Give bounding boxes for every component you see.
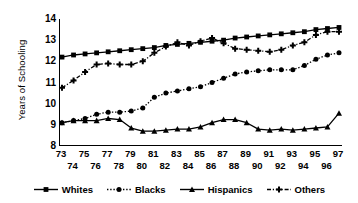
plot-area [59, 19, 342, 146]
legend-label: Others [295, 184, 326, 195]
x-tick-label: 73 [51, 148, 71, 159]
legend-marker-circle-icon [106, 184, 132, 195]
series-others [60, 29, 342, 91]
y-tick-label: 10 [34, 99, 56, 109]
x-tick-label: 93 [282, 148, 302, 159]
x-tick-label: 75 [74, 148, 94, 159]
legend-item-others[interactable]: Others [266, 184, 326, 195]
legend-label: Blacks [135, 184, 166, 195]
x-tick-label: 87 [213, 148, 233, 159]
x-axis-tick-labels: 7375777981838587899193959774767880828486… [0, 147, 358, 175]
legend-item-whites[interactable]: Whites [33, 184, 93, 195]
legend-label: Whites [62, 184, 93, 195]
legend-marker-triangle-icon [179, 184, 205, 195]
x-tick-label: 95 [305, 148, 325, 159]
x-tick-label: 74 [63, 160, 83, 171]
legend-marker-square-icon [33, 184, 59, 195]
x-tick-label: 86 [201, 160, 221, 171]
x-tick-label: 90 [247, 160, 267, 171]
x-tick-label: 83 [166, 148, 186, 159]
x-tick-label: 76 [86, 160, 106, 171]
chart-container: Years of Schooling 891011121314 73757779… [0, 0, 358, 203]
plot-svg [60, 19, 343, 146]
legend-item-hispanics[interactable]: Hispanics [179, 184, 253, 195]
x-tick-label: 85 [190, 148, 210, 159]
x-tick-label: 88 [224, 160, 244, 171]
x-tick-label: 84 [178, 160, 198, 171]
y-tick-label: 14 [34, 14, 56, 24]
x-tick-label: 94 [293, 160, 313, 171]
x-tick-label: 97 [328, 148, 348, 159]
series-hispanics [60, 110, 342, 134]
y-tick-label: 9 [34, 120, 56, 130]
x-tick-label: 81 [143, 148, 163, 159]
x-tick-label: 77 [97, 148, 117, 159]
x-tick-label: 80 [132, 160, 152, 171]
x-tick-label: 92 [270, 160, 290, 171]
x-tick-label: 78 [109, 160, 129, 171]
legend-marker-plus-icon [266, 184, 292, 195]
x-tick-label: 79 [120, 148, 140, 159]
y-axis-title: Years of Schooling [14, 10, 30, 150]
y-tick-label: 13 [34, 35, 56, 45]
x-tick-label: 89 [236, 148, 256, 159]
legend-item-blacks[interactable]: Blacks [106, 184, 166, 195]
y-tick-label: 12 [34, 56, 56, 66]
x-tick-label: 82 [155, 160, 175, 171]
x-tick-label: 96 [316, 160, 336, 171]
chart-legend: WhitesBlacksHispanicsOthers [0, 180, 358, 198]
x-tick-label: 91 [259, 148, 279, 159]
series-blacks [60, 50, 342, 125]
y-tick-label: 11 [34, 78, 56, 88]
legend-label: Hispanics [208, 184, 253, 195]
